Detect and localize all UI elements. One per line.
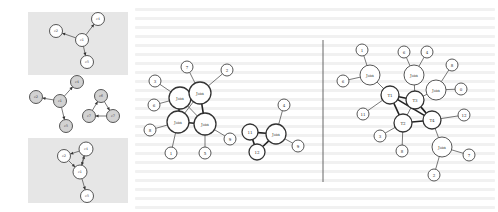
panel-1-node-c2: c2: [50, 25, 63, 38]
edge: [349, 77, 360, 80]
right-node-n0: 0: [455, 83, 467, 95]
panel-3-node-c1: c1: [73, 165, 87, 179]
node-label: c5: [64, 124, 68, 128]
mid-node-n6: 6: [148, 99, 160, 111]
mid-node-j1: Join: [169, 87, 191, 109]
mid-node-n3: 3: [149, 75, 161, 87]
right-node-jd: Join: [432, 137, 452, 157]
right-node-T3: T3: [406, 91, 424, 109]
panel-3-node-c2: c2: [58, 150, 71, 163]
panel-2: c1c2c4c5c6c7c7: [30, 76, 120, 133]
node-label: c5: [85, 194, 89, 198]
figure-canvas: c1c2c4c5c1c2c4c5c6c7c7c1c2c4c5 JoinJoinJ…: [0, 0, 498, 212]
mid-node-n2: 2: [221, 64, 233, 76]
right-node-n11: 11: [357, 108, 369, 120]
node-label: 6: [153, 103, 156, 108]
node-label: c5: [85, 60, 89, 64]
edge: [377, 82, 384, 89]
node-label: 4: [426, 50, 429, 55]
node-label: c6: [99, 94, 103, 98]
node-label: c1: [80, 38, 84, 42]
mid-node-n9b: 9: [292, 140, 304, 152]
panel-3: c1c2c4c5: [28, 138, 128, 203]
mid-node-n8: 8: [144, 124, 156, 136]
node-label: T1: [387, 93, 392, 98]
left-panels: c1c2c4c5c1c2c4c5c6c7c7c1c2c4c5: [28, 12, 128, 203]
edge: [385, 127, 395, 133]
edge: [160, 101, 170, 104]
node-label: Join: [200, 122, 209, 127]
node-label: 9: [297, 144, 300, 149]
right-node-jb: Join: [404, 65, 424, 85]
node-label: Join: [271, 132, 280, 137]
node-label: Join: [437, 145, 446, 150]
node-label: 11: [360, 112, 365, 117]
node-label: 0: [460, 87, 463, 92]
mid-node-j2: Join: [189, 82, 211, 104]
node-label: c2: [54, 29, 58, 33]
panel-2-node-c1: c1: [54, 95, 67, 108]
node-label: 2: [433, 173, 436, 178]
thick-edge: [258, 133, 266, 134]
panel-2-node-c4: c4: [71, 76, 84, 89]
node-label: 1: [361, 48, 364, 53]
right-node-T4: T4: [423, 111, 441, 129]
mid-node-t1: 11: [242, 124, 258, 140]
node-label: 2: [226, 68, 229, 73]
node-label: 6: [403, 50, 406, 55]
node-label: c1: [78, 170, 82, 174]
panel-2-node-c7: c7: [83, 110, 96, 123]
node-label: T3: [412, 98, 418, 103]
node-label: 8: [451, 63, 454, 68]
right-node-n2: 2: [428, 169, 440, 181]
mid-node-n1: 1: [165, 147, 177, 159]
arrowhead-icon: [96, 114, 99, 117]
right-node-n6b: 6: [398, 46, 410, 58]
thick-edge: [412, 121, 423, 122]
node-label: 7: [468, 153, 471, 158]
thick-edge: [202, 104, 203, 113]
mid-node-n4: 4: [278, 99, 290, 111]
mid-node-n7: 7: [181, 61, 193, 73]
node-label: Join: [173, 120, 182, 125]
node-label: 7: [186, 65, 189, 70]
node-label: c7: [87, 114, 91, 118]
right-node-n8: 8: [446, 59, 458, 71]
node-label: Join: [431, 88, 440, 93]
node-label: Join: [409, 73, 418, 78]
node-label: Join: [365, 73, 374, 78]
background-bleed-text: [135, 8, 495, 209]
panel-1-node-c5: c5: [81, 56, 94, 69]
right-node-jc: Join: [426, 80, 446, 100]
node-label: c2: [62, 154, 66, 158]
panel-2-node-c2: c2: [30, 91, 43, 104]
right-node-n7: 7: [463, 149, 475, 161]
panel-2-node-c8: c7: [107, 110, 120, 123]
right-node-T1: T1: [381, 86, 399, 104]
node-label: T4: [429, 118, 435, 123]
node-label: c7: [111, 114, 115, 118]
panel-3-node-c4: c4: [79, 142, 93, 156]
node-label: 1: [170, 151, 173, 156]
node-label: 11: [247, 130, 252, 135]
right-node-n6: 6: [337, 75, 349, 87]
right-node-n12: 12: [458, 109, 470, 121]
right-node-n3: 3: [374, 130, 386, 142]
node-label: 8: [401, 149, 404, 154]
node-label: 8: [149, 128, 152, 133]
mid-node-n9: 9: [224, 133, 236, 145]
panel-2-node-c5: c5: [60, 120, 73, 133]
node-label: Join: [195, 91, 204, 96]
panel-1: c1c2c4c5: [28, 12, 128, 75]
node-label: 4: [283, 103, 286, 108]
node-label: 3: [154, 79, 157, 84]
node-label: 3: [379, 134, 382, 139]
right-node-n1: 1: [356, 44, 368, 56]
node-label: Join: [175, 96, 184, 101]
panel-3-node-c5: c5: [81, 190, 94, 203]
panel-2-node-c6: c6: [95, 90, 108, 103]
mid-node-jr: Join: [266, 124, 286, 144]
right-node-T2: T2: [394, 114, 412, 132]
right-node-ja: Join: [360, 65, 380, 85]
node-label: 12: [254, 150, 260, 155]
